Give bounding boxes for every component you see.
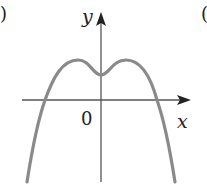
x-axis-label: x [177, 110, 188, 132]
panel-left-fragment: ) [0, 3, 7, 24]
panel-right-fragment: ( [201, 3, 207, 24]
origin-label: 0 [81, 108, 92, 129]
y-axis-label: y [81, 5, 93, 27]
graph: ) ( y 0 x [0, 0, 207, 195]
